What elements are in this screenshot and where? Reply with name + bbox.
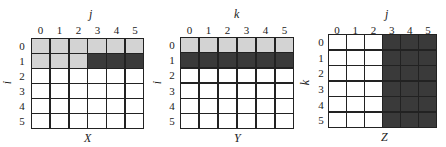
matrix-cell <box>383 35 400 49</box>
matrix-cell <box>347 82 364 96</box>
matrix-cell <box>329 66 346 80</box>
matrix-name-label: Y <box>234 131 241 146</box>
matrix-cell <box>126 54 143 68</box>
matrix-cell <box>51 114 68 128</box>
matrix-cell <box>181 114 198 128</box>
col-tick: 3 <box>88 23 107 37</box>
col-tick: 0 <box>180 23 199 37</box>
matrix-cell <box>419 35 436 49</box>
matrix-cell <box>365 66 382 80</box>
matrix-cell <box>32 39 49 53</box>
matrix-cell <box>383 66 400 80</box>
col-tick: 0 <box>31 23 50 37</box>
matrix-cell <box>88 54 105 68</box>
matrix-cell <box>107 114 124 128</box>
matrix-cell <box>107 84 124 98</box>
matrix-cell <box>200 69 217 83</box>
matrix-cell <box>365 113 382 127</box>
matrix-cell <box>51 39 68 53</box>
matrix-cell <box>329 113 346 127</box>
matrix-panel-x: j 0 1 2 3 4 5 i 0 1 2 3 4 5 X <box>0 0 150 147</box>
matrix-panel-z: j 0 1 2 3 4 5 k 0 1 2 3 4 5 Z <box>296 0 446 147</box>
row-tick: 5 <box>166 113 178 128</box>
matrix-grid <box>31 38 144 129</box>
col-axis-label: k <box>234 7 239 22</box>
matrix-cell <box>32 84 49 98</box>
matrix-cell <box>238 53 255 67</box>
row-tick: 5 <box>315 112 327 128</box>
matrix-cell <box>329 82 346 96</box>
col-tick: 1 <box>50 23 69 37</box>
matrix-cell <box>347 97 364 111</box>
matrix-panel-y: k 0 1 2 3 4 5 i 0 1 2 3 4 5 Y <box>150 0 300 147</box>
matrix-cell <box>107 69 124 83</box>
matrix-cell <box>70 69 87 83</box>
matrix-cell <box>107 99 124 113</box>
matrix-cell <box>70 114 87 128</box>
matrix-cell <box>329 51 346 65</box>
matrix-cell <box>88 114 105 128</box>
matrix-cell <box>347 66 364 80</box>
matrix-cell <box>347 51 364 65</box>
matrix-cell <box>32 54 49 68</box>
matrix-cell <box>51 99 68 113</box>
matrix-cell <box>88 99 105 113</box>
matrix-cell <box>365 97 382 111</box>
matrix-cell <box>238 38 255 52</box>
matrix-cell <box>126 84 143 98</box>
matrix-cell <box>200 99 217 113</box>
matrix-cell <box>419 66 436 80</box>
row-tick: 4 <box>315 97 327 113</box>
matrix-cell <box>276 114 293 128</box>
matrix-cell <box>276 69 293 83</box>
row-axis-label: i <box>150 81 165 84</box>
matrix-cell <box>51 69 68 83</box>
row-tick: 4 <box>166 98 178 113</box>
matrix-grid <box>180 37 294 129</box>
matrix-cell <box>219 69 236 83</box>
matrix-name-label: X <box>84 131 91 146</box>
matrix-cell <box>401 51 418 65</box>
matrix-cell <box>257 99 274 113</box>
col-tick: 4 <box>107 23 126 37</box>
matrix-cell <box>276 84 293 98</box>
col-ticks: 0 1 2 3 4 5 <box>31 23 144 37</box>
row-tick: 1 <box>315 50 327 66</box>
matrix-cell <box>219 114 236 128</box>
matrix-cell <box>32 114 49 128</box>
matrix-cell <box>70 84 87 98</box>
col-tick: 1 <box>199 23 218 37</box>
row-ticks: 0 1 2 3 4 5 <box>16 38 28 129</box>
matrix-cell <box>238 99 255 113</box>
row-ticks: 0 1 2 3 4 5 <box>166 37 178 129</box>
matrix-cell <box>32 69 49 83</box>
matrix-cell <box>401 97 418 111</box>
matrix-cell <box>219 53 236 67</box>
matrix-cell <box>383 113 400 127</box>
matrix-cell <box>276 99 293 113</box>
col-ticks: 0 1 2 3 4 5 <box>180 23 294 37</box>
matrix-cell <box>419 97 436 111</box>
col-tick: 5 <box>126 23 144 37</box>
matrix-cell <box>70 99 87 113</box>
matrix-cell <box>126 69 143 83</box>
row-tick: 0 <box>166 37 178 52</box>
row-tick: 3 <box>166 83 178 98</box>
matrix-cell <box>200 53 217 67</box>
matrix-cell <box>126 39 143 53</box>
matrix-cell <box>257 69 274 83</box>
matrix-cell <box>365 82 382 96</box>
matrix-cell <box>347 113 364 127</box>
matrix-cell <box>365 51 382 65</box>
row-axis-label: k <box>298 80 313 85</box>
matrix-cell <box>219 99 236 113</box>
col-axis-label: j <box>385 7 388 22</box>
matrix-cell <box>88 84 105 98</box>
matrix-cell <box>70 39 87 53</box>
row-tick: 2 <box>166 68 178 83</box>
matrix-cell <box>70 54 87 68</box>
col-tick: 2 <box>69 23 88 37</box>
col-tick: 5 <box>275 23 294 37</box>
matrix-cell <box>107 54 124 68</box>
matrix-cell <box>329 35 346 49</box>
